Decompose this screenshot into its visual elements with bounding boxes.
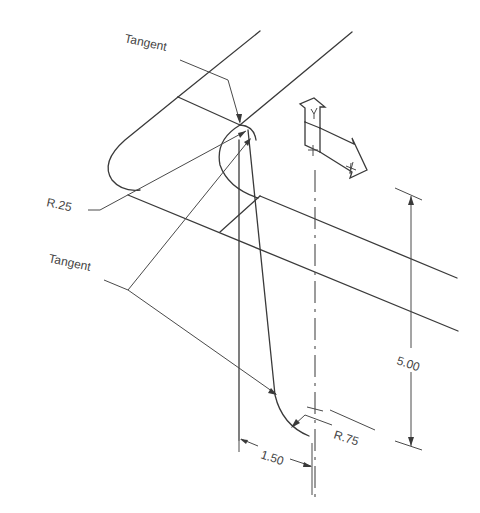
tangent-left-label: Tangent bbox=[47, 251, 92, 274]
isometric-drawing: R.25 Tangent Tangent R.75 1.50 bbox=[0, 0, 480, 513]
dimension-vertical: 5.00 bbox=[395, 188, 422, 450]
dimension-horizontal: 1.50 bbox=[239, 439, 312, 495]
dim-1-50-label: 1.50 bbox=[259, 448, 286, 469]
dim-5-00-label: 5.00 bbox=[395, 354, 422, 375]
tangent-top-label: Tangent bbox=[123, 31, 168, 54]
radius-small-label: R.25 bbox=[45, 195, 73, 214]
vertical-edge-curved bbox=[248, 130, 309, 436]
radius-large-leader: R.75 bbox=[291, 410, 375, 449]
radius-large-label: R.75 bbox=[332, 428, 361, 449]
axis-indicator bbox=[300, 98, 367, 178]
tangent-top-leader: Tangent bbox=[123, 31, 242, 124]
lower-slab-edges bbox=[128, 195, 458, 331]
